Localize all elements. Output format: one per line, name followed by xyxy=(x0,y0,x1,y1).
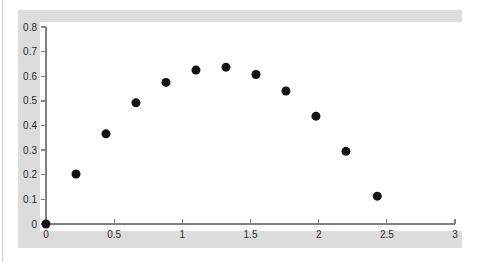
scatter-point xyxy=(191,66,200,75)
y-tick-label: 0.4 xyxy=(23,120,37,131)
scatter-point xyxy=(42,220,51,229)
y-axis: 00.10.20.30.40.50.60.70.8 xyxy=(23,22,46,230)
y-tick-label: 0.8 xyxy=(23,22,37,33)
y-tick-label: 0.3 xyxy=(23,145,37,156)
figure-root: 00.10.20.30.40.50.60.70.8 00.511.522.53 xyxy=(0,0,478,262)
scatter-point xyxy=(131,98,140,107)
scatter-point xyxy=(71,170,80,179)
data-points xyxy=(42,63,382,229)
x-axis: 00.511.522.53 xyxy=(43,219,458,240)
y-tick-label: 0.2 xyxy=(23,169,37,180)
scatter-point xyxy=(161,78,170,87)
y-tick-label: 0.7 xyxy=(23,46,37,57)
scatter-point xyxy=(221,63,230,72)
scatter-point xyxy=(373,192,382,201)
x-tick-label: 1.5 xyxy=(244,229,258,240)
scatter-plot: 00.10.20.30.40.50.60.70.8 00.511.522.53 xyxy=(0,0,478,262)
scatter-point xyxy=(311,112,320,121)
y-tick-label: 0.6 xyxy=(23,71,37,82)
scatter-point xyxy=(101,129,110,138)
y-tick-label: 0.5 xyxy=(23,95,37,106)
y-tick-label: 0 xyxy=(31,219,37,230)
scatter-point xyxy=(281,87,290,96)
x-tick-label: 3 xyxy=(452,229,458,240)
x-tick-label: 1 xyxy=(180,229,186,240)
scatter-point xyxy=(251,70,260,79)
scatter-point xyxy=(341,147,350,156)
y-tick-label: 0.1 xyxy=(23,194,37,205)
x-tick-label: 0 xyxy=(43,229,49,240)
x-tick-label: 2.5 xyxy=(380,229,394,240)
x-tick-label: 0.5 xyxy=(107,229,121,240)
x-tick-label: 2 xyxy=(316,229,322,240)
